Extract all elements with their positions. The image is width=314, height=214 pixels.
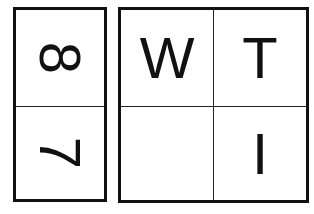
- left-cell-top: 8: [16, 10, 104, 106]
- cell-label: 8: [31, 42, 89, 74]
- cell-label: W: [140, 29, 195, 87]
- cell-label: T: [242, 29, 277, 87]
- right-cell-top-left: W: [121, 10, 213, 106]
- left-panel: 8 7: [13, 7, 107, 202]
- right-cell-bottom-left: [121, 107, 213, 200]
- right-panel: W T I: [118, 7, 309, 203]
- cell-label: I: [252, 125, 268, 183]
- cell-label: 7: [31, 137, 89, 169]
- right-cell-top-right: T: [214, 10, 306, 106]
- left-cell-bottom: 7: [16, 107, 104, 199]
- right-cell-bottom-right: I: [214, 107, 306, 200]
